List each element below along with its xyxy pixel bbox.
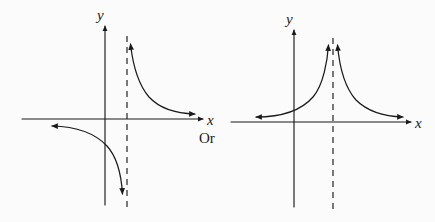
left-graph-y-axis-label: y	[95, 7, 104, 23]
figure-container: y x y x Or	[0, 0, 435, 222]
or-connector-label: Or	[199, 131, 215, 146]
right-graph-x-axis-label: x	[414, 115, 422, 131]
right-graph-y-axis-label: y	[284, 11, 293, 27]
right-graph-left-branch	[256, 45, 329, 117]
right-graph-right-branch	[338, 45, 404, 117]
graph-canvas: y x y x	[0, 0, 435, 222]
left-graph-upper-right-branch	[131, 44, 196, 114]
left-graph-x-axis-label: x	[206, 112, 214, 128]
left-graph: y x	[22, 7, 214, 207]
right-graph: y x	[231, 11, 422, 209]
left-graph-lower-left-branch	[52, 126, 123, 194]
